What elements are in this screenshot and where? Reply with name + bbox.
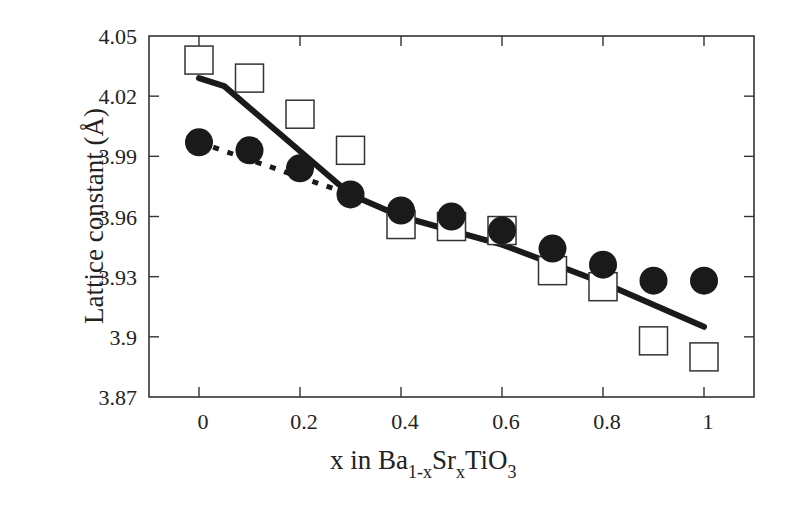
open-square-marker — [337, 136, 365, 164]
filled-circle-marker — [236, 136, 264, 164]
filled-circle-marker — [438, 203, 466, 231]
y-axis-title: Lattice constant (Å) — [79, 108, 109, 324]
open-square-marker — [286, 100, 314, 128]
filled-circle-marker — [690, 267, 718, 295]
lattice-constant-chart: 4.054.023.993.963.933.93.87 00.20.40.60.… — [0, 0, 791, 513]
solid-fit-line — [199, 78, 704, 327]
x-tick-label: 0.8 — [593, 409, 621, 434]
y-tick-label: 3.87 — [99, 385, 138, 410]
x-tick-label: 0.2 — [290, 409, 318, 434]
open-square-marker — [640, 327, 668, 355]
filled-circle-marker — [488, 217, 516, 245]
filled-circle-marker — [640, 267, 668, 295]
x-tick-label: 0 — [198, 409, 209, 434]
open-square-marker — [236, 64, 264, 92]
open-square-marker — [185, 46, 213, 74]
filled-circle-marker — [539, 235, 567, 263]
x-tick-label: 0.4 — [391, 409, 419, 434]
x-tick-label: 1 — [703, 409, 714, 434]
y-tick-label: 3.9 — [110, 325, 138, 350]
fit-lines — [199, 78, 704, 327]
data-markers — [185, 46, 718, 371]
filled-circle-marker — [185, 128, 213, 156]
filled-circle-marker — [589, 251, 617, 279]
filled-circle-marker — [337, 180, 365, 208]
x-axis-title: x in Ba1-xSrxTiO3 — [330, 445, 517, 482]
x-tick-label: 0.6 — [492, 409, 520, 434]
filled-circle-marker — [387, 196, 415, 224]
open-square-marker — [690, 343, 718, 371]
dotted-fit-line — [199, 142, 351, 194]
filled-circle-marker — [286, 154, 314, 182]
y-tick-label: 4.02 — [99, 84, 138, 109]
y-tick-label: 4.05 — [99, 24, 138, 49]
